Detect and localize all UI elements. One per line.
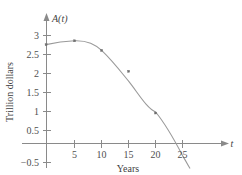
x-tick-label-25: 25 bbox=[178, 149, 188, 160]
chart-figure: 3 2.5 2 1.5 1 0.5 −0.5 5 10 15 20 25 A(t… bbox=[0, 0, 242, 175]
x-tick-label-15: 15 bbox=[124, 149, 134, 160]
y-axis-title: Trillion dollars bbox=[4, 62, 15, 122]
x-axis-variable-label: t bbox=[231, 138, 234, 149]
data-point bbox=[45, 44, 47, 46]
data-point bbox=[128, 70, 130, 72]
y-tick-label-3: 3 bbox=[34, 30, 39, 41]
data-point-markers bbox=[45, 40, 157, 114]
y-axis-arrow-icon bbox=[44, 13, 50, 21]
y-tick-label-2: 2 bbox=[34, 68, 39, 79]
y-axis-function-label: A(t) bbox=[51, 13, 68, 25]
data-curve bbox=[46, 41, 190, 169]
x-tick-label-20: 20 bbox=[151, 149, 161, 160]
data-point bbox=[155, 112, 157, 114]
x-tick-label-5: 5 bbox=[72, 149, 77, 160]
x-tick-label-10: 10 bbox=[97, 149, 107, 160]
x-axis-arrow-icon bbox=[221, 141, 229, 147]
y-tick-label-neg0_5: −0.5 bbox=[21, 157, 39, 168]
x-axis-title: Years bbox=[117, 163, 139, 174]
data-point bbox=[101, 49, 103, 51]
data-point bbox=[74, 40, 76, 42]
y-tick-label-1_5: 1.5 bbox=[27, 87, 40, 98]
y-tick-label-1: 1 bbox=[34, 106, 39, 117]
y-tick-label-0_5: 0.5 bbox=[27, 125, 40, 136]
chart-plot-area: 3 2.5 2 1.5 1 0.5 −0.5 5 10 15 20 25 A(t… bbox=[0, 0, 242, 175]
y-tick-label-2_5: 2.5 bbox=[27, 49, 40, 60]
